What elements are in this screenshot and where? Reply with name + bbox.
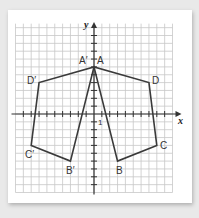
vertex-label-c-prime: C′ (25, 150, 34, 160)
vertex-label-b-prime: B′ (66, 166, 75, 176)
vertex-label-a: A (97, 56, 104, 66)
y-axis-label: y (84, 20, 88, 30)
vertex-label-b: B (116, 166, 123, 176)
x-axis-label: x (178, 116, 183, 126)
vertex-label-a-prime: A′ (79, 56, 88, 66)
vertex-label-c: C (160, 141, 167, 151)
vertex-label-d: D (152, 76, 159, 86)
vertex-label-d-prime: D′ (27, 76, 36, 86)
coordinate-grid (0, 0, 199, 218)
unit-label: 1 (98, 118, 102, 128)
